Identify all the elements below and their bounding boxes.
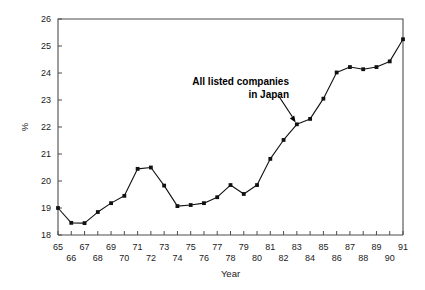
y-tick-label: 19 bbox=[41, 203, 51, 213]
data-point-marker bbox=[375, 65, 379, 69]
x-tick-label: 86 bbox=[332, 253, 342, 263]
data-point-marker bbox=[401, 37, 405, 41]
x-axis-title: Year bbox=[221, 268, 240, 279]
data-point-marker bbox=[189, 203, 193, 207]
x-tick-label: 91 bbox=[398, 242, 408, 252]
data-point-marker bbox=[348, 65, 352, 69]
annotation-line-2: in Japan bbox=[248, 89, 289, 100]
data-point-marker bbox=[69, 221, 73, 225]
data-point-marker bbox=[295, 122, 299, 126]
data-point-marker bbox=[109, 201, 113, 205]
data-point-marker bbox=[162, 184, 166, 188]
x-tick-label: 75 bbox=[186, 242, 196, 252]
x-tick-label: 81 bbox=[265, 242, 275, 252]
x-tick-label: 67 bbox=[80, 242, 90, 252]
x-tick-label: 82 bbox=[279, 253, 289, 263]
data-point-marker bbox=[388, 59, 392, 63]
data-point-marker bbox=[136, 167, 140, 171]
x-tick-label: 74 bbox=[172, 253, 182, 263]
data-point-marker bbox=[215, 195, 219, 199]
x-tick-label: 71 bbox=[133, 242, 143, 252]
chart-figure: 181920212223242526 656667686970717273747… bbox=[0, 0, 425, 290]
data-point-marker bbox=[255, 183, 259, 187]
y-tick-label: 21 bbox=[41, 149, 51, 159]
x-tick-label: 69 bbox=[106, 242, 116, 252]
y-tick-label: 18 bbox=[41, 230, 51, 240]
data-point-marker bbox=[149, 166, 153, 170]
data-point-marker bbox=[56, 206, 60, 210]
x-tick-label: 66 bbox=[66, 253, 76, 263]
data-point-marker bbox=[96, 210, 100, 214]
data-point-marker bbox=[321, 97, 325, 101]
y-tick-label: 25 bbox=[41, 41, 51, 51]
y-tick-label: 23 bbox=[41, 95, 51, 105]
x-tick-label: 72 bbox=[146, 253, 156, 263]
data-point-marker bbox=[122, 194, 126, 198]
annotation-line-1: All listed companies bbox=[192, 76, 289, 87]
data-point-marker bbox=[229, 183, 233, 187]
x-tick-label: 77 bbox=[212, 242, 222, 252]
x-tick-label: 73 bbox=[159, 242, 169, 252]
x-tick-label: 83 bbox=[292, 242, 302, 252]
x-tick-label: 70 bbox=[119, 253, 129, 263]
x-tick-label: 85 bbox=[318, 242, 328, 252]
y-tick-label: 26 bbox=[41, 14, 51, 24]
data-point-marker bbox=[202, 201, 206, 205]
data-point-marker bbox=[308, 117, 312, 121]
y-axis-title: % bbox=[19, 122, 30, 131]
data-point-marker bbox=[176, 204, 180, 208]
y-tick-label: 20 bbox=[41, 176, 51, 186]
data-point-marker bbox=[335, 71, 339, 75]
y-tick-label: 24 bbox=[41, 68, 51, 78]
x-tick-label: 68 bbox=[93, 253, 103, 263]
x-tick-label: 76 bbox=[199, 253, 209, 263]
x-tick-label: 80 bbox=[252, 253, 262, 263]
x-tick-label: 90 bbox=[385, 253, 395, 263]
chart-svg: 181920212223242526 656667686970717273747… bbox=[0, 0, 425, 290]
x-tick-label: 88 bbox=[358, 253, 368, 263]
x-tick-label: 84 bbox=[305, 253, 315, 263]
data-point-marker bbox=[242, 192, 246, 196]
data-point-marker bbox=[83, 221, 87, 225]
y-axis-tick-labels: 181920212223242526 bbox=[41, 14, 51, 240]
data-point-marker bbox=[361, 67, 365, 71]
data-point-marker bbox=[268, 157, 272, 161]
x-tick-label: 78 bbox=[225, 253, 235, 263]
x-tick-label: 87 bbox=[345, 242, 355, 252]
x-tick-label: 65 bbox=[53, 242, 63, 252]
data-point-marker bbox=[282, 138, 286, 142]
x-tick-label: 79 bbox=[239, 242, 249, 252]
y-tick-label: 22 bbox=[41, 122, 51, 132]
x-tick-label: 89 bbox=[371, 242, 381, 252]
